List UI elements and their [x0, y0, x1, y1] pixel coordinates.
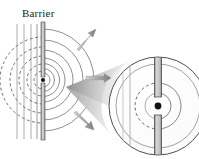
magnified-inset-circle [109, 57, 199, 155]
arrow-upper-right [77, 29, 96, 51]
figure-wave-diffraction: Barrier [0, 0, 199, 159]
diagram-canvas [0, 0, 199, 159]
slit-source-point [41, 78, 45, 82]
arrow-lower-right [74, 111, 94, 130]
barrier-label: Barrier [22, 7, 55, 19]
